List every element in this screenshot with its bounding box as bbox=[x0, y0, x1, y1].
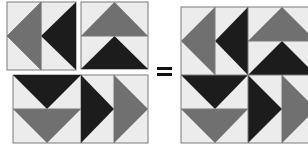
piece-left-arrows bbox=[7, 2, 76, 70]
piece-bottom-row bbox=[13, 75, 148, 143]
quilt-diagram bbox=[0, 0, 308, 145]
assembled-pinwheel-block bbox=[181, 7, 308, 143]
equals-sign bbox=[157, 67, 172, 76]
piece-up-arrows bbox=[81, 2, 148, 69]
